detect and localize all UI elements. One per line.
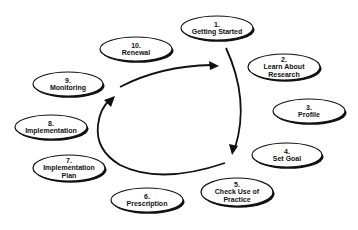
- node-number: 6.: [144, 193, 150, 200]
- node-label: Prescription: [127, 200, 168, 208]
- node-step-9: 9.Monitoring: [33, 72, 105, 98]
- node-number: 8.: [48, 120, 54, 127]
- node-number: 10.: [131, 42, 141, 49]
- node-label: Research: [268, 71, 300, 78]
- arrows-layer: [98, 48, 241, 175]
- nodes-layer: 1.Getting Started2.Learn AboutResearch3.…: [15, 16, 347, 214]
- node-label: Learn About: [264, 63, 306, 70]
- node-number: 7.: [66, 157, 72, 164]
- arrow-right: [226, 48, 241, 148]
- node-label: Renewal: [122, 49, 150, 56]
- arrowhead-top-icon: [209, 61, 219, 70]
- node-label: Practice: [223, 196, 250, 203]
- node-number: 5.: [234, 181, 240, 188]
- node-step-10: 10.Renewal: [100, 37, 174, 63]
- node-step-8: 8.Implementation: [15, 115, 89, 141]
- node-label: Check Use of: [215, 188, 260, 195]
- arrow-top: [120, 65, 212, 87]
- node-number: 4.: [284, 148, 290, 155]
- node-step-2: 2.Learn AboutResearch: [248, 54, 322, 82]
- node-number: 3.: [306, 104, 312, 111]
- node-step-6: 6.Prescription: [111, 188, 185, 214]
- node-number: 9.: [65, 77, 71, 84]
- node-step-7: 7.ImplementationPlan: [33, 155, 107, 183]
- node-number: 1.: [214, 21, 220, 28]
- node-label: Set Goal: [273, 155, 301, 162]
- arrow-bottom-left: [98, 100, 225, 175]
- node-label: Plan: [62, 172, 77, 179]
- node-label: Getting Started: [192, 28, 243, 36]
- node-label: Implementation: [25, 127, 77, 135]
- node-step-3: 3.Profile: [273, 99, 347, 125]
- node-step-4: 4.Set Goal: [252, 143, 324, 169]
- node-label: Profile: [298, 111, 320, 118]
- cycle-diagram: 1.Getting Started2.Learn AboutResearch3.…: [0, 0, 358, 230]
- node-label: Monitoring: [50, 84, 86, 92]
- node-number: 2.: [281, 56, 287, 63]
- node-step-1: 1.Getting Started: [181, 16, 255, 42]
- arrowhead-right-icon: [229, 144, 238, 155]
- node-step-5: 5.Check Use ofPractice: [201, 178, 275, 208]
